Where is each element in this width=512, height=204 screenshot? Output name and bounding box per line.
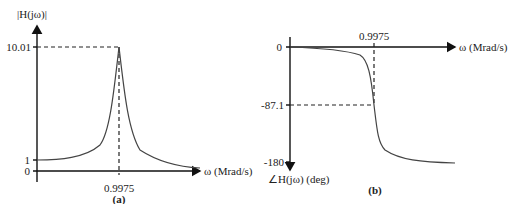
panel-a-xlabel: ω (Mrad/s)	[204, 165, 253, 178]
panel-b: 0 -87.1 -180 ω (Mrad/s) 0.9975 ∠H(jω) (d…	[261, 30, 508, 197]
panel-b-caption: (b)	[368, 184, 382, 197]
panel-a-magnitude-curve	[37, 47, 200, 168]
panel-b-tick-zero-label: 0	[277, 41, 283, 53]
panel-b-tick-x-label: 0.9975	[359, 30, 390, 42]
panel-a-tick-one-label: 1	[25, 154, 31, 166]
panel-b-xlabel: ω (Mrad/s)	[459, 41, 508, 54]
figure: |H(jω)| 0 1 10.01 ω (Mrad/s) 0.9975 (a) …	[0, 0, 512, 204]
panel-b-tick-min-label: -180	[264, 156, 285, 168]
panel-b-ylabel: ∠H(jω) (deg)	[268, 173, 330, 186]
panel-a-caption: (a)	[113, 193, 126, 204]
panel-a-tick-zero-label: 0	[25, 165, 31, 177]
panel-a-ylabel: |H(jω)|	[17, 8, 47, 21]
panel-b-tick-mid-label: -87.1	[261, 99, 284, 111]
panel-a: |H(jω)| 0 1 10.01 ω (Mrad/s) 0.9975 (a)	[6, 8, 253, 204]
panel-a-tick-peak-label: 10.01	[6, 41, 31, 53]
